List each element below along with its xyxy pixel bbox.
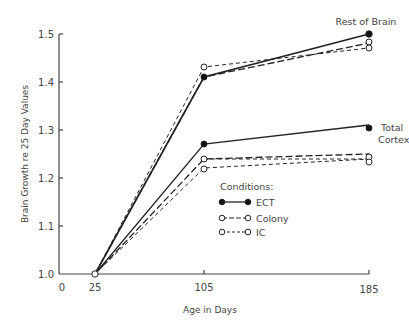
legend-label: ECT — [256, 197, 275, 208]
series-rest-of-brain — [95, 34, 369, 274]
axes — [59, 34, 369, 274]
x-tick-label: 0 — [59, 282, 65, 293]
marker-filled — [201, 74, 207, 80]
chart: 1.5 1.4 1.3 1.2 1.1 1.0 0 25 105 185 Age… — [0, 0, 409, 322]
marker-open — [201, 166, 207, 172]
x-tick-label: 185 — [359, 284, 378, 295]
legend-label: IC — [256, 227, 266, 238]
annotation-rest-of-brain: Rest of Brain — [336, 16, 397, 27]
legend-item-ect: ECT — [219, 197, 274, 208]
y-axis-title: Brain Growth re 25 Day Values — [20, 85, 30, 223]
marker-origin — [92, 271, 98, 277]
y-tick-label: 1.3 — [38, 125, 54, 136]
legend-item-colony: Colony — [219, 213, 289, 224]
x-tick-label: 25 — [89, 282, 102, 293]
legend: Conditions: ECT Colony IC — [219, 181, 289, 238]
annotation-total-cortex-line1: Total — [380, 122, 403, 133]
legend-title: Conditions: — [220, 181, 273, 192]
line-rob-ect — [95, 34, 369, 274]
marker-open — [366, 45, 372, 51]
legend-item-ic: IC — [219, 227, 266, 238]
y-tick-label: 1.5 — [38, 29, 54, 40]
marker-open — [366, 159, 372, 165]
marker-open — [201, 156, 207, 162]
y-tick-label: 1.0 — [38, 269, 54, 280]
marker-open — [201, 64, 207, 70]
marker-filled — [201, 141, 207, 147]
y-tick-label: 1.2 — [38, 173, 54, 184]
x-tick-labels: 0 25 105 185 — [59, 282, 379, 295]
line-tc-ic — [95, 159, 369, 274]
marker-filled — [366, 31, 372, 37]
x-axis-title: Age in Days — [183, 305, 237, 315]
marker-open — [366, 39, 372, 45]
y-tick-label: 1.1 — [38, 221, 54, 232]
annotation-total-cortex-line2: Cortex — [378, 134, 409, 145]
legend-label: Colony — [256, 213, 289, 224]
x-tick-label: 105 — [194, 282, 213, 293]
y-tick-labels: 1.5 1.4 1.3 1.2 1.1 1.0 — [38, 29, 54, 280]
markers — [92, 31, 372, 277]
line-tc-colony — [95, 154, 369, 274]
marker-filled — [366, 125, 372, 131]
y-tick-label: 1.4 — [38, 77, 54, 88]
